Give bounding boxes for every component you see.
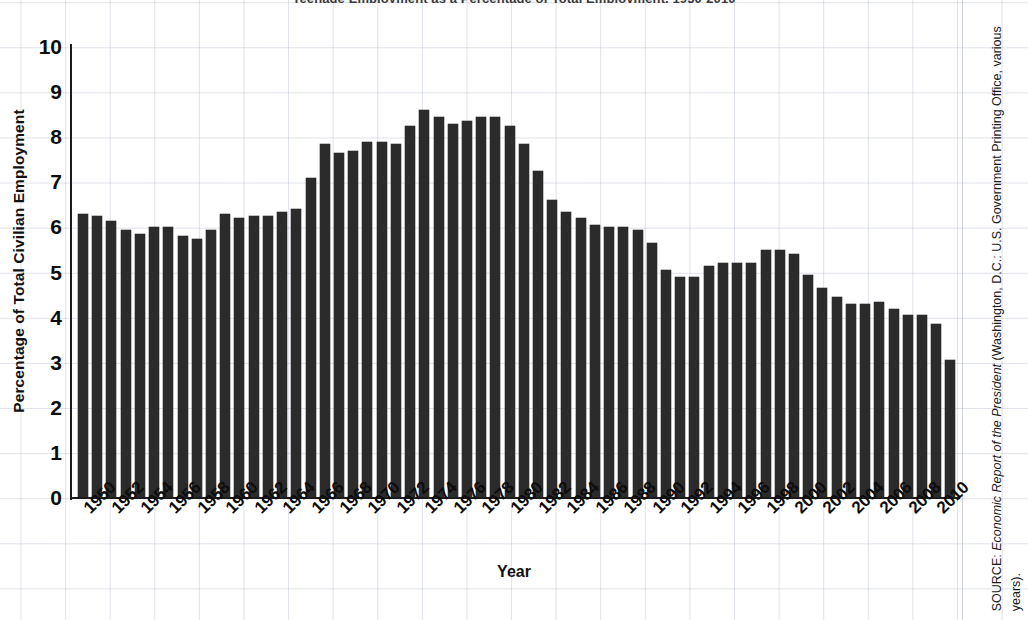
source-publication: Economic Report of the President — [990, 364, 1004, 551]
x-axis-ticks: 1950195219541956195819601962196419661968… — [0, 0, 1028, 620]
x-tick-2010: 2010 — [933, 478, 973, 518]
source-note: SOURCE: Economic Report of the President… — [986, 28, 1026, 613]
x-axis-title: Year — [0, 563, 1028, 581]
source-prefix: SOURCE: — [990, 551, 1004, 611]
